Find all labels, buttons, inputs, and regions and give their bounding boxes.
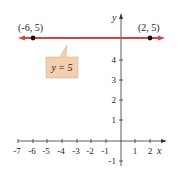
point-2-5: [148, 36, 153, 41]
point-label-neg6-5: (-6, 5): [18, 22, 43, 34]
svg-text:-1: -1: [109, 156, 117, 166]
x-tick-labels: -7 -6 -5 -4 -3 -2 -1 1 2: [13, 146, 152, 156]
callout-label: y = 5: [50, 62, 72, 73]
point-neg6-5: [31, 36, 36, 41]
svg-text:-1: -1: [101, 146, 109, 156]
svg-text:3: 3: [112, 75, 117, 85]
svg-text:4: 4: [112, 55, 117, 65]
svg-text:1: 1: [133, 146, 138, 156]
line-left-arrow-icon: [18, 36, 25, 41]
svg-text:-7: -7: [13, 146, 21, 156]
svg-text:-2: -2: [86, 146, 94, 156]
svg-text:1: 1: [112, 115, 117, 125]
svg-text:2: 2: [112, 95, 117, 105]
x-axis-arrow-icon: [161, 139, 167, 143]
svg-text:-5: -5: [42, 146, 50, 156]
point-label-2-5: (2, 5): [138, 22, 160, 34]
svg-text:-4: -4: [57, 146, 65, 156]
y-axis-arrow-icon: [119, 13, 123, 19]
y-axis-label: y: [111, 12, 117, 23]
graph: y x -7 -6 -5 -4 -3 -2 -1 1 2 4 3 2 1 -1: [0, 0, 183, 173]
svg-text:-6: -6: [28, 146, 36, 156]
svg-text:2: 2: [148, 146, 153, 156]
x-axis-label: x: [156, 145, 162, 156]
line-right-arrow-icon: [158, 36, 165, 41]
svg-text:-3: -3: [72, 146, 80, 156]
y-tick-labels: 4 3 2 1 -1: [109, 55, 117, 166]
